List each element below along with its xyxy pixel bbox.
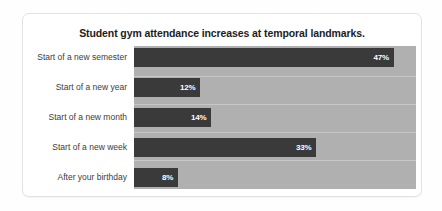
bar-row: 14% — [134, 108, 416, 127]
bar[interactable]: 8% — [134, 168, 178, 187]
gridline — [134, 104, 416, 105]
bar[interactable]: 12% — [134, 78, 200, 97]
bar-row: 33% — [134, 138, 416, 157]
bar-row: 8% — [134, 168, 416, 187]
bar-row: 12% — [134, 78, 416, 97]
category-axis: Start of a new semester Start of a new y… — [30, 46, 134, 189]
gridline — [134, 76, 416, 77]
category-label: Start of a new semester — [30, 48, 134, 67]
bar-value-label: 8% — [162, 173, 173, 182]
bar[interactable]: 47% — [134, 48, 394, 67]
category-label: After your birthday — [30, 168, 134, 187]
gridline — [134, 132, 416, 133]
category-label: Start of a new year — [30, 78, 134, 97]
bar-value-label: 12% — [180, 83, 195, 92]
bar[interactable]: 33% — [134, 138, 316, 157]
category-label: Start of a new week — [30, 138, 134, 157]
gridline — [134, 160, 416, 161]
bar-value-label: 14% — [191, 113, 206, 122]
plot-area: 47% 12% 14% 33% 8% — [134, 46, 416, 189]
bar-row: 47% — [134, 48, 416, 67]
chart-card: Student gym attendance increases at temp… — [22, 13, 422, 197]
chart-title: Student gym attendance increases at temp… — [23, 27, 421, 39]
bar-value-label: 33% — [296, 143, 311, 152]
bar[interactable]: 14% — [134, 108, 211, 127]
bar-value-label: 47% — [373, 53, 388, 62]
bar-chart: Start of a new semester Start of a new y… — [30, 46, 416, 189]
category-label: Start of a new month — [30, 108, 134, 127]
